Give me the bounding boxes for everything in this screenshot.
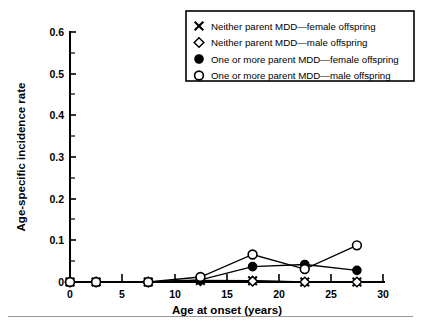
- x-tick-label-0: 0: [67, 288, 73, 300]
- x-axis-tick-labels: 0 5 10 15 20 25 30: [67, 288, 389, 300]
- y-tick-label-03: 0.3: [49, 151, 64, 163]
- x-tick-label-15: 15: [221, 288, 233, 300]
- data-series-layer: [65, 241, 362, 287]
- x-axis-title: Age at onset (years): [172, 304, 282, 316]
- legend-marker-3: [195, 71, 204, 80]
- data-point-3-2: [144, 278, 153, 287]
- series-line-2: [70, 265, 357, 283]
- y-tick-label-05: 0.5: [49, 68, 64, 80]
- y-axis-tick-labels: 0 0.1 0.2 0.3 0.4 0.5 0.6: [49, 26, 64, 288]
- x-tick-label-10: 10: [169, 288, 181, 300]
- y-tick-label-02: 0.2: [49, 193, 64, 205]
- legend-item-3: One or more parent MDD—male offspring: [195, 70, 391, 81]
- chart-figure: 0 0.1 0.2 0.3 0.4 0.5 0.6 Age-specific i…: [0, 0, 421, 324]
- y-tick-label-01: 0.1: [49, 234, 64, 246]
- legend-label-2: One or more parent MDD—female offspring: [211, 54, 399, 65]
- footer-divider: [8, 316, 413, 317]
- legend-item-2: One or more parent MDD—female offspring: [195, 54, 399, 65]
- y-tick-label-0: 0: [58, 276, 64, 288]
- legend-label-0: Neither parent MDD—female offspring: [211, 21, 376, 32]
- data-point-3-6: [353, 241, 362, 250]
- chart-legend: Neither parent MDD—female offspringNeith…: [186, 11, 414, 81]
- legend-label-1: Neither parent MDD—male offspring: [211, 37, 368, 48]
- data-point-2-6: [353, 266, 361, 274]
- x-tick-label-30: 30: [377, 288, 389, 300]
- series-3: [66, 241, 362, 286]
- data-point-2-4: [248, 262, 256, 270]
- data-point-3-1: [92, 278, 101, 287]
- data-point-3-4: [248, 250, 257, 259]
- legend-item-1: Neither parent MDD—male offspring: [194, 37, 367, 48]
- incidence-rate-line-chart: 0 0.1 0.2 0.3 0.4 0.5 0.6 Age-specific i…: [0, 0, 421, 324]
- y-axis-title: Age-specific incidence rate: [15, 83, 27, 232]
- y-tick-label-06: 0.6: [49, 26, 64, 38]
- x-tick-label-25: 25: [325, 288, 337, 300]
- data-point-3-3: [196, 273, 205, 282]
- x-tick-label-5: 5: [119, 288, 125, 300]
- legend-label-3: One or more parent MDD—male offspring: [211, 70, 391, 81]
- data-point-3-5: [300, 265, 309, 274]
- x-tick-label-20: 20: [273, 288, 285, 300]
- data-point-3-0: [66, 278, 75, 287]
- y-tick-label-04: 0.4: [49, 109, 64, 121]
- legend-item-0: Neither parent MDD—female offspring: [195, 21, 376, 32]
- legend-marker-2: [195, 55, 203, 63]
